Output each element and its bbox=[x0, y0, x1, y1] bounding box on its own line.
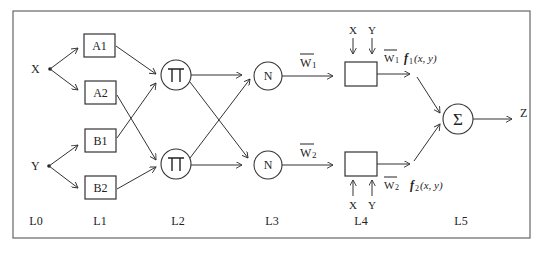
node-normalize-1: N bbox=[254, 62, 282, 90]
svg-text:W: W bbox=[300, 146, 312, 160]
edge-out1-sum bbox=[417, 77, 440, 113]
node-product-2 bbox=[161, 149, 191, 179]
edge-p2-n1 bbox=[190, 79, 250, 158]
node-normalize-2: N bbox=[254, 151, 282, 179]
svg-text:W: W bbox=[384, 52, 395, 64]
edge-out2-sum bbox=[414, 124, 440, 161]
node-b1: B1 bbox=[85, 129, 116, 152]
anfis-diagram: X Y A1 A2 B1 B2 N bbox=[0, 0, 543, 257]
svg-text:2: 2 bbox=[312, 150, 317, 160]
svg-text:A1: A1 bbox=[92, 39, 107, 53]
svg-text:W: W bbox=[300, 56, 312, 70]
sigma-icon: Σ bbox=[453, 110, 463, 129]
node-rule-1 bbox=[345, 62, 377, 86]
weight-label-2: W 2 bbox=[300, 144, 317, 160]
node-a2: A2 bbox=[85, 81, 116, 104]
layer-label-l4: L4 bbox=[354, 214, 367, 228]
layer-label-l5: L5 bbox=[454, 214, 467, 228]
svg-text:N: N bbox=[264, 69, 273, 83]
node-product-1 bbox=[161, 60, 191, 90]
l4-bottom-y-label: Y bbox=[368, 199, 376, 211]
edge-x-a1 bbox=[50, 48, 78, 69]
svg-text:B2: B2 bbox=[93, 181, 107, 195]
node-sum: Σ bbox=[443, 104, 473, 134]
edge-b1-p1 bbox=[117, 83, 156, 138]
svg-text:(x, y): (x, y) bbox=[414, 52, 437, 65]
l4-top-y-label: Y bbox=[368, 24, 376, 36]
edge-a2-p2 bbox=[117, 95, 156, 160]
edge-b2-p2 bbox=[117, 167, 156, 189]
svg-text:2: 2 bbox=[395, 183, 399, 192]
node-rule-2 bbox=[345, 152, 377, 176]
l4-bottom-x-label: X bbox=[349, 199, 357, 211]
layer-label-l3: L3 bbox=[265, 214, 278, 228]
weight-label-1: W 1 bbox=[300, 54, 317, 70]
node-b2: B2 bbox=[85, 176, 116, 199]
edge-a1-p1 bbox=[116, 46, 156, 74]
input-x-label: X bbox=[31, 62, 40, 76]
svg-text:1: 1 bbox=[395, 56, 399, 65]
svg-text:B1: B1 bbox=[93, 134, 107, 148]
layer-label-l1: L1 bbox=[93, 214, 106, 228]
svg-text:2: 2 bbox=[415, 184, 419, 193]
svg-text:N: N bbox=[264, 158, 273, 172]
node-a1: A1 bbox=[84, 34, 115, 57]
input-y-label: Y bbox=[31, 159, 40, 173]
layer-label-l2: L2 bbox=[171, 214, 184, 228]
svg-text:W: W bbox=[384, 179, 395, 191]
l4-top-x-label: X bbox=[349, 24, 357, 36]
edge-y-b2 bbox=[49, 166, 78, 188]
svg-text:(x, y): (x, y) bbox=[420, 179, 443, 192]
rule-output-label-1: W 1 f 1 (x, y) bbox=[384, 50, 437, 66]
layer-label-l0: L0 bbox=[29, 214, 42, 228]
edge-y-b1 bbox=[49, 145, 78, 166]
svg-text:1: 1 bbox=[409, 57, 413, 66]
edge-x-a2 bbox=[50, 69, 78, 90]
svg-text:A2: A2 bbox=[93, 86, 108, 100]
output-z-label: Z bbox=[520, 106, 527, 120]
rule-output-label-2: W 2 f 2 (x, y) bbox=[384, 177, 443, 193]
svg-text:1: 1 bbox=[312, 60, 317, 70]
